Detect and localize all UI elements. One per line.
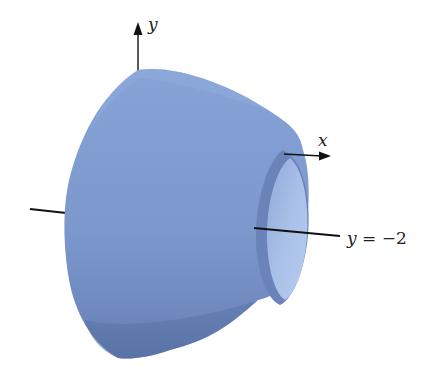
rotation-axis-var: y: [347, 228, 357, 248]
x-axis-label: x: [318, 130, 328, 150]
rotation-axis-label: y = −2: [347, 228, 407, 248]
rotation-axis-eq: = −2: [362, 228, 407, 248]
rotation-axis-left: [30, 209, 66, 213]
y-axis-arrow-icon: [134, 22, 143, 35]
solid-of-revolution-figure: [0, 0, 443, 384]
y-axis-label: y: [148, 14, 158, 34]
x-axis-arrow-icon: [319, 152, 331, 161]
